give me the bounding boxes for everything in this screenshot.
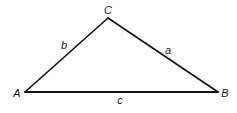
side-b-line bbox=[25, 18, 108, 92]
side-label-c: c bbox=[117, 95, 123, 106]
side-a-line bbox=[108, 18, 218, 92]
side-label-b: b bbox=[61, 40, 67, 51]
vertex-label-a: A bbox=[13, 88, 20, 99]
vertex-label-c: C bbox=[104, 5, 112, 16]
triangle-diagram: A B C a b c bbox=[0, 0, 237, 113]
vertex-label-b: B bbox=[221, 88, 228, 99]
side-label-a: a bbox=[165, 45, 171, 56]
